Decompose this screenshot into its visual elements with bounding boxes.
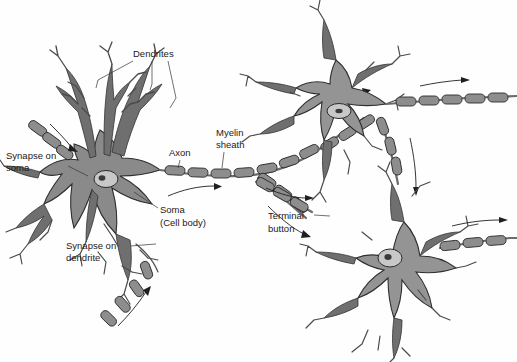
label-synapse-on-soma-line1: Synapse on [6, 150, 56, 161]
main-neuron-nucleolus [99, 175, 106, 181]
main-neuron-nucleus [94, 171, 118, 188]
label-dendrites: Dendrites [133, 48, 174, 59]
label-synapse-on-dendrite-line1: Synapse on [66, 240, 116, 251]
label-myelin-sheath-line1: Myelin [216, 127, 243, 138]
label-soma-line2: (Cell body) [160, 217, 206, 228]
label-soma-line1: Soma [160, 204, 186, 215]
lower-right-neuron-nucleolus [384, 254, 391, 260]
label-terminal-button-line1: Terminal [268, 210, 304, 221]
label-synapse-on-dendrite-line2: dendrite [66, 252, 100, 263]
label-terminal-button-line2: button [268, 223, 294, 234]
label-axon: Axon [169, 147, 191, 158]
label-synapse-on-soma-line2: soma [6, 162, 30, 173]
neuron-diagram: Dendrites Synapse on soma Synapse on den… [0, 0, 517, 362]
upper-right-neuron-nucleolus [335, 109, 342, 113]
label-myelin-sheath-line2: sheath [216, 139, 245, 150]
